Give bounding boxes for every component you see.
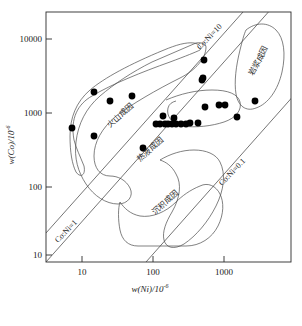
data-point xyxy=(171,115,178,122)
data-point xyxy=(202,104,209,111)
y-axis-title-exponent: -6 xyxy=(5,125,11,130)
data-point xyxy=(129,93,136,100)
x-axis-title-text: w(Ni)/10 xyxy=(131,284,164,294)
x-tick-label: 10 xyxy=(78,267,88,277)
data-point xyxy=(201,57,208,64)
svg-text:w(Co)/10-6: w(Co)/10-6 xyxy=(5,125,16,164)
x-tick-label: 1000 xyxy=(215,267,234,277)
data-point xyxy=(222,102,229,109)
y-axis-title-text: w(Co)/10 xyxy=(6,130,16,165)
data-point xyxy=(234,114,241,121)
data-point xyxy=(187,120,194,127)
plot-background xyxy=(0,0,302,326)
data-point xyxy=(69,125,76,132)
data-point xyxy=(107,98,114,105)
data-point xyxy=(91,133,98,140)
data-point xyxy=(91,89,98,96)
x-axis-title: w(Ni)/10-6 xyxy=(131,283,168,294)
data-point xyxy=(160,113,167,120)
svg-text:w(Ni)/10-6: w(Ni)/10-6 xyxy=(131,283,168,294)
chart-figure: Co:Ni=10 Co:Ni=1 Co:Ni=0.1 火山成因 热液成因 沉积成… xyxy=(0,0,302,326)
x-axis-title-exponent: -6 xyxy=(164,283,169,289)
co-ni-genetic-discrimination-plot: Co:Ni=10 Co:Ni=1 Co:Ni=0.1 火山成因 热液成因 沉积成… xyxy=(0,0,302,326)
data-point xyxy=(216,102,223,109)
data-point xyxy=(252,98,259,105)
y-tick-label: 10000 xyxy=(20,34,43,44)
y-tick-label: 10 xyxy=(33,250,43,260)
y-tick-label: 100 xyxy=(29,182,43,192)
y-tick-label: 1000 xyxy=(24,108,43,118)
y-axis-title: w(Co)/10-6 xyxy=(5,125,16,164)
data-point xyxy=(195,120,202,127)
x-tick-label: 100 xyxy=(146,267,160,277)
data-point xyxy=(200,75,207,82)
